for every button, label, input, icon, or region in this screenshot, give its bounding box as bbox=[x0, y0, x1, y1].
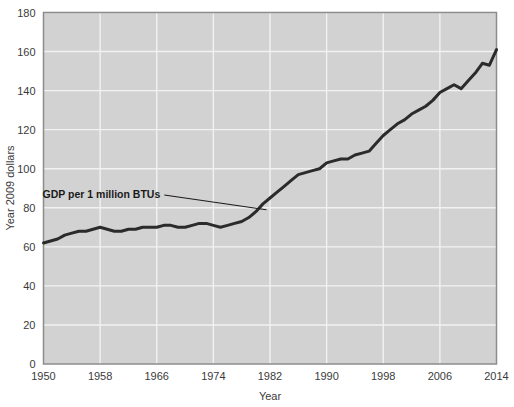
x-tick-label: 1950 bbox=[31, 370, 55, 382]
x-axis-title: Year bbox=[259, 390, 282, 402]
x-tick-label: 1998 bbox=[371, 370, 395, 382]
y-axis-title: Year 2009 dollars bbox=[4, 145, 16, 231]
series-annotation-label: GDP per 1 million BTUs bbox=[43, 188, 161, 200]
chart-container: 020406080100120140160180 195019581966197… bbox=[0, 0, 514, 407]
y-tick-label: 40 bbox=[23, 280, 35, 292]
x-tick-label: 1958 bbox=[88, 370, 112, 382]
y-tick-label: 60 bbox=[23, 241, 35, 253]
y-tick-label: 100 bbox=[17, 163, 35, 175]
y-tick-label: 120 bbox=[17, 124, 35, 136]
x-tick-label: 1990 bbox=[314, 370, 338, 382]
x-tick-label: 2006 bbox=[428, 370, 452, 382]
y-tick-label: 20 bbox=[23, 319, 35, 331]
y-tick-label: 160 bbox=[17, 46, 35, 58]
y-tick-label: 140 bbox=[17, 85, 35, 97]
x-axis-tick-labels: 195019581966197419821990199820062014 bbox=[31, 370, 508, 382]
y-tick-label: 80 bbox=[23, 202, 35, 214]
x-tick-label: 1974 bbox=[201, 370, 225, 382]
y-tick-label: 180 bbox=[17, 7, 35, 19]
x-tick-label: 1982 bbox=[258, 370, 282, 382]
gdp-per-btu-line-chart: 020406080100120140160180 195019581966197… bbox=[0, 0, 514, 407]
y-tick-label: 0 bbox=[29, 358, 35, 370]
x-tick-label: 1966 bbox=[145, 370, 169, 382]
x-tick-label: 2014 bbox=[484, 370, 508, 382]
